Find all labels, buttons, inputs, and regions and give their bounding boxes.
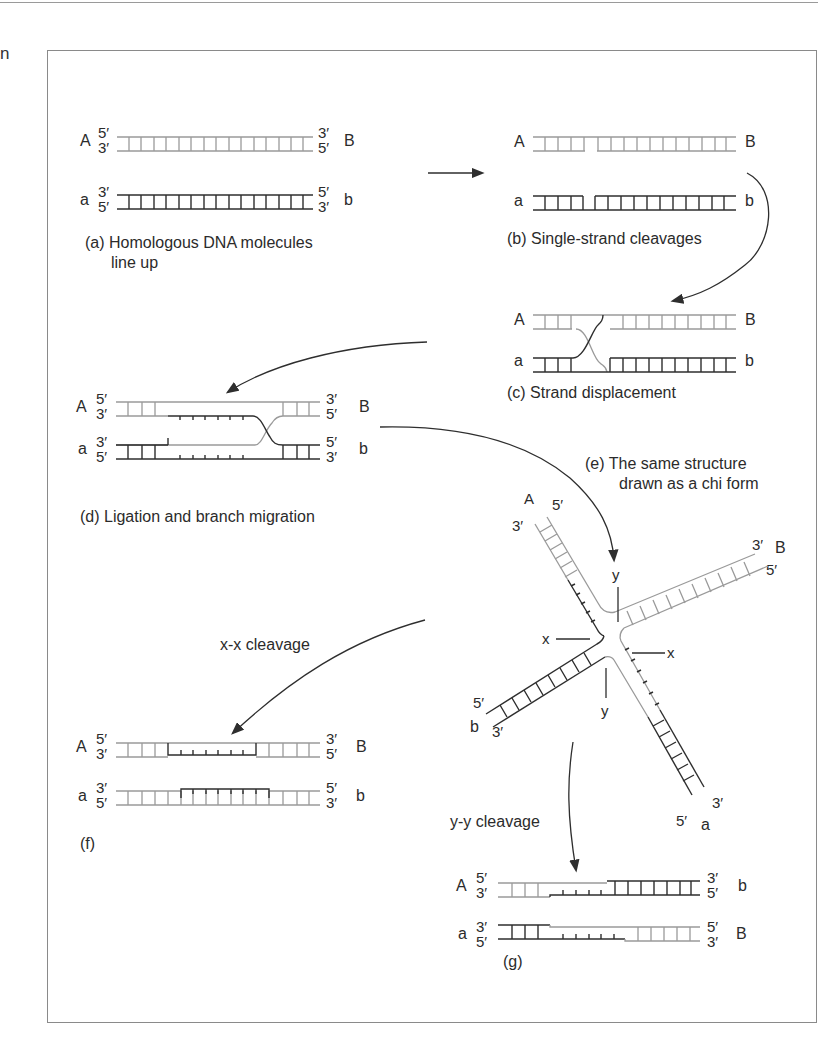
strand-a <box>533 315 736 372</box>
caption-a-line2: line up <box>111 254 158 271</box>
end-label: 3′ <box>752 536 763 553</box>
cut-y-top: y <box>612 566 620 583</box>
panel-e: (e) The same structure drawn as a chi fo… <box>470 455 786 833</box>
end-label: 3′ <box>96 405 107 422</box>
label-b: b <box>359 440 368 457</box>
cut-x-left: x <box>542 630 550 647</box>
end-label: 5′ <box>552 496 563 513</box>
caption-a: (a) Homologous DNA molecules <box>85 234 313 251</box>
arm-lower-right-light <box>605 628 660 717</box>
strand-A-light <box>116 402 320 445</box>
arrow-c-to-d <box>228 342 427 392</box>
label-A: A <box>524 490 534 507</box>
arm-upper-left-dark <box>568 580 604 636</box>
end-label: 5′ <box>96 794 107 811</box>
label-a: a <box>80 191 89 208</box>
end-label: 3′ <box>707 933 718 950</box>
arm-upper-right <box>598 554 768 628</box>
end-label: 5′ <box>476 933 487 950</box>
strand-A <box>533 315 736 372</box>
label-A: A <box>514 133 525 150</box>
arrow-y-y-cleavage <box>569 742 576 870</box>
end-label: 3′ <box>98 139 109 156</box>
caption-g: (g) <box>503 953 523 970</box>
label-b: b <box>745 352 754 369</box>
duplex-ab-nicked <box>533 196 736 210</box>
end-label: 3′ <box>476 884 487 901</box>
end-label: 3′ <box>326 794 337 811</box>
label-B: B <box>745 133 756 150</box>
patch-dark-top <box>168 743 256 755</box>
label-B: B <box>745 311 756 328</box>
arm-lower-left <box>486 636 605 727</box>
panel-g: A 5′ 3′ 3′ 5′ b a 3′ 5′ 5 <box>456 869 747 970</box>
caption-e: (e) The same structure <box>585 455 747 472</box>
caption-f: (f) <box>80 835 95 852</box>
panel-c: A B a b (c) Strand displacement <box>507 311 756 401</box>
panel-a: A 5′ 3′ 3′ 5′ B a 3′ 5′ 5′ 3′ b (a) Homo… <box>80 124 355 271</box>
label-b: b <box>745 192 754 209</box>
label-B: B <box>356 738 367 755</box>
duplex-ab <box>117 195 313 209</box>
label-B: B <box>359 398 370 415</box>
label-b: b <box>344 191 353 208</box>
label-B: B <box>775 539 786 556</box>
label-A: A <box>456 877 467 894</box>
cleavage-markers <box>556 587 665 698</box>
cut-x-right: x <box>667 644 675 661</box>
label-a: a <box>514 192 523 209</box>
end-label: 3′ <box>492 723 503 740</box>
end-label: 5′ <box>98 198 109 215</box>
end-label: 3′ <box>96 745 107 762</box>
label-A: A <box>514 311 525 328</box>
end-label: 5′ <box>96 448 107 465</box>
label-B: B <box>736 925 747 942</box>
panel-b: A B a b (b) Single-strand cleavages <box>507 133 756 247</box>
cut-y-bottom: y <box>601 702 609 719</box>
label-a: a <box>514 352 523 369</box>
caption-d: (d) Ligation and branch migration <box>80 508 315 525</box>
end-label: 5′ <box>326 405 337 422</box>
end-label: 3′ <box>318 198 329 215</box>
arrow-d-to-e <box>380 427 614 560</box>
end-label: 5′ <box>326 745 337 762</box>
label-A: A <box>80 132 91 149</box>
panel-f: A 5′ 3′ 3′ 5′ B a 3′ 5′ 5′ 3′ b <box>76 730 367 852</box>
caption-c: (c) Strand displacement <box>507 384 677 401</box>
duplex-AB <box>117 137 313 151</box>
end-label: 5′ <box>318 139 329 156</box>
label-B: B <box>344 132 355 149</box>
y-y-cleavage-label: y-y cleavage <box>450 813 540 830</box>
x-x-cleavage-label: x-x cleavage <box>220 636 310 653</box>
label-a: a <box>78 787 87 804</box>
caption-e-line2: drawn as a chi form <box>619 475 759 492</box>
label-A: A <box>76 398 87 415</box>
recombination-diagram: A 5′ 3′ 3′ 5′ B a 3′ 5′ 5′ 3′ b (a) Homo… <box>0 0 837 1064</box>
end-label: 5′ <box>676 812 687 829</box>
end-label: 3′ <box>712 794 723 811</box>
label-a: a <box>458 925 467 942</box>
duplex-AB-nicked <box>533 137 736 151</box>
end-label: 3′ <box>326 448 337 465</box>
label-b: b <box>470 718 479 735</box>
end-label: 5′ <box>766 561 777 578</box>
label-b: b <box>738 877 747 894</box>
arm-upper-left <box>535 517 598 603</box>
strand-a-dark <box>116 416 320 459</box>
label-b: b <box>356 787 365 804</box>
label-A: A <box>76 738 87 755</box>
caption-b: (b) Single-strand cleavages <box>507 230 702 247</box>
end-label: 5′ <box>473 694 484 711</box>
label-a: a <box>701 816 710 833</box>
panel-d: A 5′ 3′ 3′ 5′ B a 3′ 5′ 5′ 3′ b (d) Liga… <box>76 390 370 525</box>
end-label: 3′ <box>512 517 523 534</box>
label-a: a <box>78 440 87 457</box>
end-label: 5′ <box>707 884 718 901</box>
